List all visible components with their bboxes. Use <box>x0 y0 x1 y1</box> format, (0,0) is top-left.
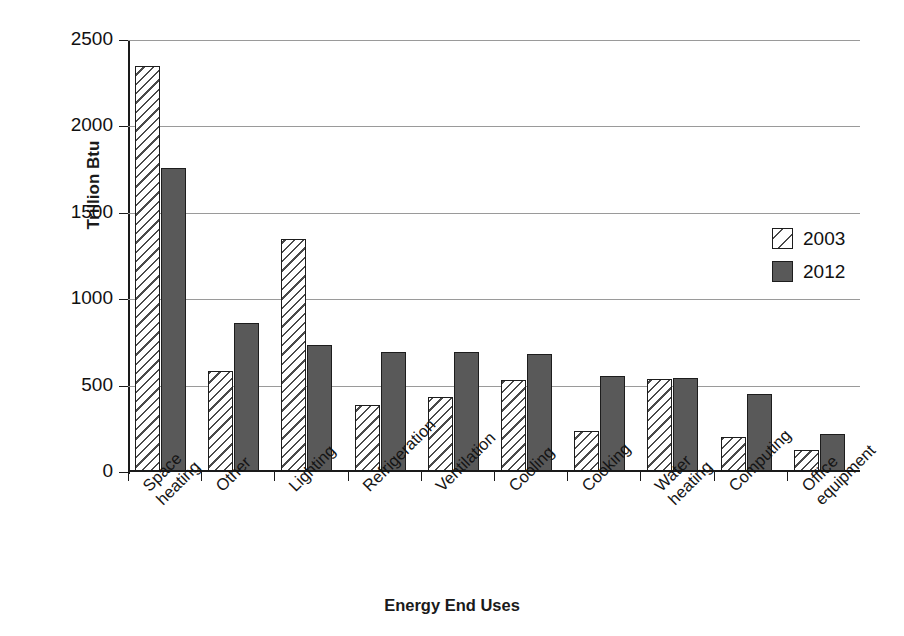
bar-group <box>128 40 201 472</box>
y-tick-mark <box>119 40 128 41</box>
legend-swatch-2003 <box>772 228 793 249</box>
x-tick-mark <box>640 472 641 481</box>
x-axis-title: Energy End Uses <box>0 596 904 615</box>
legend-label-2003: 2003 <box>803 228 845 250</box>
x-tick-mark <box>494 472 495 481</box>
y-tick-mark <box>119 299 128 300</box>
y-tick-mark <box>119 126 128 127</box>
bar-group <box>640 40 713 472</box>
x-tick-mark <box>567 472 568 481</box>
x-tick-mark <box>274 472 275 481</box>
y-tick-label: 1000 <box>47 287 113 309</box>
bar-2003 <box>501 380 526 472</box>
x-tick-mark <box>348 472 349 481</box>
bar-group <box>274 40 347 472</box>
y-tick-label: 2500 <box>47 28 113 50</box>
chart-legend: 20032012 <box>772 222 882 288</box>
legend-label-2012: 2012 <box>803 261 845 283</box>
legend-item: 2003 <box>772 222 882 255</box>
y-tick-label: 0 <box>47 460 113 482</box>
x-tick-mark <box>787 472 788 481</box>
bar-2012 <box>161 168 186 472</box>
y-tick-mark <box>119 213 128 214</box>
bar-group <box>201 40 274 472</box>
y-tick-mark <box>119 386 128 387</box>
bar-chart: Trillion Btu 05001000150020002500 Space … <box>0 0 904 636</box>
bar-2003 <box>208 371 233 472</box>
bar-group <box>421 40 494 472</box>
x-tick-mark <box>714 472 715 481</box>
legend-item: 2012 <box>772 255 882 288</box>
y-tick-label: 500 <box>47 374 113 396</box>
bar-2003 <box>355 405 380 472</box>
y-tick-mark <box>119 472 128 473</box>
y-tick-label: 2000 <box>47 114 113 136</box>
bar-2003 <box>647 379 672 472</box>
x-tick-mark <box>421 472 422 481</box>
bar-2012 <box>234 323 259 472</box>
x-tick-mark <box>128 472 129 481</box>
bar-2003 <box>281 239 306 472</box>
legend-swatch-2012 <box>772 261 793 282</box>
plot-area <box>128 40 860 472</box>
bar-2003 <box>135 66 160 472</box>
y-tick-label: 1500 <box>47 201 113 223</box>
bar-group <box>494 40 567 472</box>
bar-group <box>567 40 640 472</box>
bar-group <box>348 40 421 472</box>
